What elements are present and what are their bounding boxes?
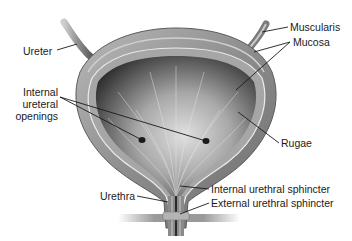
- label-rugae: Rugae: [281, 137, 312, 149]
- label-internal-urethral-sphincter: Internal urethral sphincter: [211, 183, 330, 195]
- label-urethra: Urethra: [100, 190, 135, 202]
- external-sphincter: [163, 212, 189, 220]
- label-muscularis: Muscularis: [290, 21, 340, 33]
- label-internal-ureteral-openings-line3: openings: [10, 110, 58, 122]
- bladder-diagram: Ureter Muscularis Mucosa Internal ureter…: [0, 0, 352, 241]
- left-ureter: [64, 22, 92, 58]
- label-mucosa: Mucosa: [293, 36, 330, 48]
- label-internal-ureteral-openings: Internal ureteral openings: [10, 86, 58, 122]
- label-internal-ureteral-openings-line1: Internal: [10, 86, 58, 98]
- label-external-urethral-sphincter: External urethral sphincter: [211, 197, 334, 209]
- label-ureter: Ureter: [23, 45, 52, 57]
- label-internal-ureteral-openings-line2: ureteral: [10, 98, 58, 110]
